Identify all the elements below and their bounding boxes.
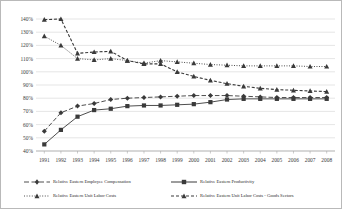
data-point-marker bbox=[325, 97, 329, 101]
data-point-marker bbox=[308, 97, 312, 101]
data-point-marker bbox=[125, 96, 130, 101]
x-axis-tick-label: 1992 bbox=[56, 157, 67, 163]
y-axis-tick-label: 80% bbox=[23, 95, 33, 101]
data-point-marker bbox=[42, 34, 47, 39]
x-axis-tick-label: 2000 bbox=[188, 157, 199, 163]
data-point-marker bbox=[274, 63, 279, 68]
y-axis-tick-label: 40% bbox=[23, 148, 33, 154]
x-axis-tick-label: 1999 bbox=[172, 157, 183, 163]
data-point-marker bbox=[75, 51, 80, 56]
data-point-marker bbox=[125, 104, 129, 108]
data-point-marker bbox=[92, 101, 97, 106]
line-chart-svg: 140%130%120%110%100%90%80%70%60%50%40%19… bbox=[1, 1, 342, 171]
legend-label: Relative Eastern Unit Labor Costs - Good… bbox=[200, 193, 294, 198]
y-axis-tick-label: 100% bbox=[20, 69, 33, 75]
data-point-marker bbox=[42, 142, 46, 146]
legend-marker-square-icon bbox=[171, 178, 197, 186]
data-point-marker bbox=[225, 93, 230, 98]
data-point-marker bbox=[242, 97, 246, 101]
chart-legend: Relative Eastern Employee Compensation R… bbox=[1, 173, 342, 209]
data-point-marker bbox=[274, 87, 279, 92]
data-point-marker bbox=[191, 93, 196, 98]
series-2 bbox=[42, 34, 329, 69]
y-axis-tick-label: 110% bbox=[21, 56, 34, 62]
series-3 bbox=[42, 16, 329, 93]
data-point-marker bbox=[208, 100, 212, 104]
data-point-marker bbox=[275, 97, 279, 101]
x-axis-tick-label: 1995 bbox=[105, 157, 116, 163]
x-axis-tick-label: 2001 bbox=[205, 157, 216, 163]
data-point-marker bbox=[108, 49, 113, 54]
data-point-marker bbox=[108, 97, 113, 102]
data-point-marker bbox=[208, 93, 213, 98]
data-point-marker bbox=[175, 59, 180, 64]
legend-item-unit-labor-costs: Relative Eastern Unit Labor Costs bbox=[24, 190, 171, 201]
data-point-marker bbox=[142, 103, 146, 107]
x-axis-tick-label: 2002 bbox=[222, 157, 233, 163]
x-axis-tick-label: 1998 bbox=[155, 157, 166, 163]
legend-marker-diamond-icon bbox=[24, 178, 50, 186]
data-point-marker bbox=[158, 94, 163, 99]
data-point-marker bbox=[158, 103, 162, 107]
data-point-marker bbox=[75, 115, 79, 119]
x-axis-tick-label: 2006 bbox=[288, 157, 299, 163]
data-point-marker bbox=[208, 78, 213, 83]
legend-row-2: Relative Eastern Unit Labor Costs Relati… bbox=[16, 187, 328, 201]
data-point-marker bbox=[92, 108, 96, 112]
x-axis-tick-label: 2004 bbox=[255, 157, 266, 163]
data-point-marker bbox=[192, 102, 196, 106]
data-point-marker bbox=[141, 95, 146, 100]
y-axis-tick-label: 50% bbox=[23, 135, 33, 141]
legend-item-productivity: Relative Eastern Productivity bbox=[171, 176, 328, 187]
legend-label: Relative Eastern Productivity bbox=[200, 179, 254, 184]
x-axis-tick-label: 2003 bbox=[238, 157, 249, 163]
legend-marker-triangle-dotted-icon bbox=[24, 192, 50, 200]
x-axis-tick-label: 2008 bbox=[321, 157, 332, 163]
legend-label: Relative Eastern Employee Compensation bbox=[53, 179, 131, 184]
x-axis-tick-label: 1996 bbox=[122, 157, 133, 163]
x-axis-tick-label: 1994 bbox=[89, 157, 100, 163]
y-axis-tick-label: 130% bbox=[20, 29, 33, 35]
x-axis-tick-label: 1991 bbox=[39, 157, 50, 163]
legend-label: Relative Eastern Unit Labor Costs bbox=[53, 193, 116, 198]
data-point-marker bbox=[258, 97, 262, 101]
legend-item-employee-compensation: Relative Eastern Employee Compensation bbox=[24, 176, 171, 187]
y-axis-tick-label: 140% bbox=[20, 16, 33, 22]
data-point-marker bbox=[225, 63, 230, 68]
legend-marker-triangle-dashed-icon bbox=[171, 192, 197, 200]
chart-figure: 140%130%120%110%100%90%80%70%60%50%40%19… bbox=[0, 0, 342, 209]
data-point-marker bbox=[109, 107, 113, 111]
data-point-marker bbox=[75, 104, 80, 109]
data-point-marker bbox=[225, 97, 229, 101]
y-axis-tick-label: 60% bbox=[23, 122, 33, 128]
x-axis-tick-label: 2005 bbox=[271, 157, 282, 163]
data-point-marker bbox=[291, 97, 295, 101]
data-point-marker bbox=[59, 128, 63, 132]
legend-row-1: Relative Eastern Employee Compensation R… bbox=[16, 173, 328, 187]
x-axis-tick-label: 1997 bbox=[139, 157, 150, 163]
series-1 bbox=[42, 97, 329, 147]
x-axis-tick-label: 2007 bbox=[305, 157, 316, 163]
x-axis-tick-label: 1993 bbox=[72, 157, 83, 163]
y-axis-tick-label: 70% bbox=[23, 108, 33, 114]
chart-plot-area: 140%130%120%110%100%90%80%70%60%50%40%19… bbox=[1, 1, 342, 171]
data-point-marker bbox=[241, 84, 246, 89]
data-point-marker bbox=[175, 103, 179, 107]
y-axis-tick-label: 120% bbox=[20, 42, 33, 48]
legend-item-unit-labor-costs-goods: Relative Eastern Unit Labor Costs - Good… bbox=[171, 190, 328, 201]
y-axis-tick-label: 90% bbox=[23, 82, 33, 88]
